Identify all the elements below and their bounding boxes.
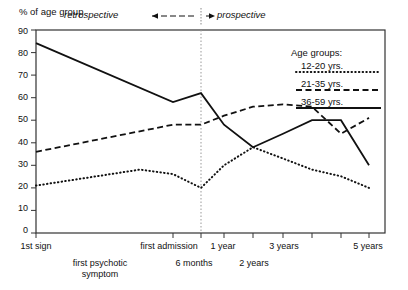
series-line-36-59 <box>36 43 369 165</box>
x-tick-marks <box>36 233 369 238</box>
plot-frame <box>36 30 385 233</box>
series-line-12-20 <box>36 147 369 188</box>
chart-figure: % of age group retrospective prospective… <box>0 0 408 290</box>
series-line-21-35 <box>36 104 369 151</box>
y-tick-marks <box>31 30 36 233</box>
annotation-arrows <box>152 13 215 19</box>
plot-canvas <box>0 0 408 290</box>
